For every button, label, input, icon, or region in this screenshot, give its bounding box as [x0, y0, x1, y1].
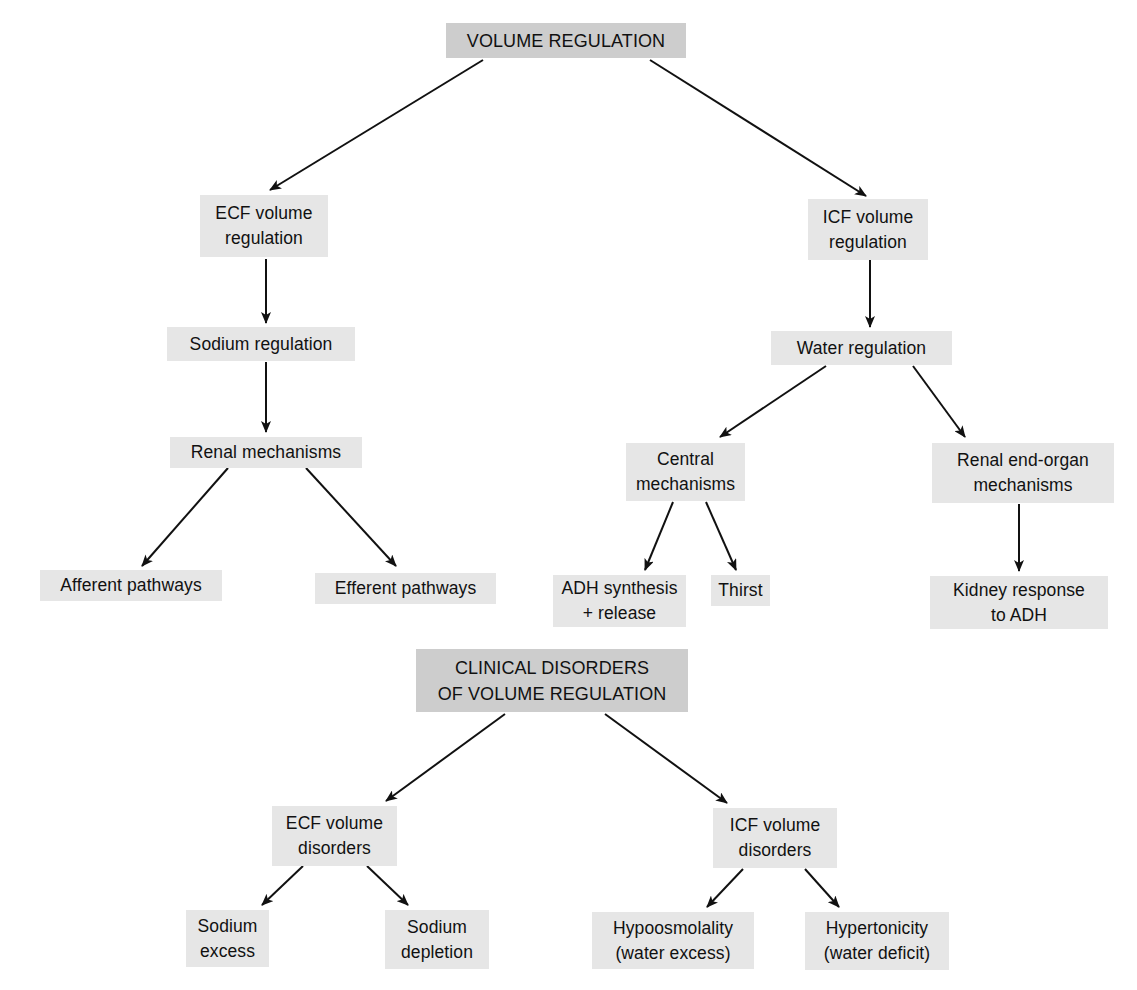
node-label-line-1: ICF volume: [730, 813, 820, 838]
node-label-line-1: Renal end-organ: [957, 448, 1089, 473]
node-label-line-1: Hypoosmolality: [613, 916, 733, 941]
node-sodium-depletion: Sodium depletion: [385, 910, 489, 969]
node-label: Thirst: [718, 578, 762, 603]
arrow-volume_regulation-to-icf_volume_regulation: [650, 60, 866, 196]
node-label-line-2: disorders: [298, 836, 371, 861]
node-label-line-2: regulation: [829, 230, 907, 255]
node-label-line-2: + release: [583, 601, 656, 626]
node-label-line-2: (water deficit): [824, 941, 931, 966]
node-label-line-2: OF VOLUME REGULATION: [438, 681, 667, 707]
node-efferent-pathways: Efferent pathways: [315, 573, 496, 604]
node-water-regulation: Water regulation: [771, 331, 952, 365]
arrow-water_regulation-to-renal_end_organ_mechanisms: [913, 366, 965, 437]
node-icf-volume-regulation: ICF volume regulation: [808, 199, 928, 260]
arrow-ecf_volume_disorders-to-sodium_depletion: [367, 866, 408, 905]
node-label-line-2: mechanisms: [636, 472, 735, 497]
node-label-line-1: Central: [657, 447, 714, 472]
arrows: [142, 60, 1019, 907]
node-volume-regulation: VOLUME REGULATION: [446, 23, 686, 58]
node-afferent-pathways: Afferent pathways: [40, 570, 222, 601]
node-label: Efferent pathways: [335, 576, 476, 601]
node-renal-mechanisms: Renal mechanisms: [170, 437, 362, 468]
node-label-line-2: to ADH: [991, 603, 1047, 628]
arrow-central_mechanisms-to-thirst: [706, 502, 736, 570]
node-label: Sodium regulation: [190, 332, 333, 357]
node-label-line-1: ADH synthesis: [561, 576, 677, 601]
node-label-line-1: ECF volume: [286, 811, 383, 836]
node-sodium-regulation: Sodium regulation: [167, 327, 355, 361]
arrow-ecf_volume_disorders-to-sodium_excess: [262, 866, 303, 905]
node-label-line-1: Kidney response: [953, 578, 1085, 603]
node-label-line-2: depletion: [401, 940, 473, 965]
node-label: Renal mechanisms: [191, 440, 341, 465]
node-label-line-1: ECF volume: [215, 201, 312, 226]
arrow-clinical_disorders-to-ecf_volume_disorders: [386, 714, 505, 801]
arrow-renal_mechanisms-to-efferent_pathways: [306, 468, 396, 566]
node-sodium-excess: Sodium excess: [186, 910, 269, 967]
node-label-line-1: Sodium: [407, 915, 467, 940]
node-label: Afferent pathways: [60, 573, 201, 598]
node-clinical-disorders: CLINICAL DISORDERS OF VOLUME REGULATION: [416, 649, 688, 712]
node-hypoosmolality: Hypoosmolality (water excess): [592, 912, 754, 969]
node-label: Water regulation: [797, 336, 926, 361]
node-thirst: Thirst: [711, 575, 770, 606]
arrow-icf_volume_disorders-to-hypertonicity: [805, 869, 839, 907]
node-label-line-2: (water excess): [615, 941, 730, 966]
node-label-line-2: excess: [200, 939, 255, 964]
node-renal-end-organ-mechanisms: Renal end-organ mechanisms: [932, 443, 1114, 503]
node-label: VOLUME REGULATION: [467, 28, 665, 54]
arrow-clinical_disorders-to-icf_volume_disorders: [605, 714, 727, 803]
node-ecf-volume-disorders: ECF volume disorders: [272, 806, 397, 866]
node-adh-synthesis-release: ADH synthesis + release: [553, 575, 686, 627]
node-label-line-1: Sodium: [198, 914, 258, 939]
node-label-line-1: CLINICAL DISORDERS: [455, 655, 649, 681]
arrow-central_mechanisms-to-adh_synthesis_release: [645, 502, 673, 570]
node-label-line-1: Hypertonicity: [826, 916, 928, 941]
node-label-line-1: ICF volume: [823, 205, 913, 230]
arrow-renal_mechanisms-to-afferent_pathways: [142, 468, 228, 566]
volume-regulation-diagram: VOLUME REGULATION ECF volume regulation …: [0, 0, 1137, 990]
node-central-mechanisms: Central mechanisms: [626, 443, 745, 501]
arrow-water_regulation-to-central_mechanisms: [720, 366, 826, 437]
node-icf-volume-disorders: ICF volume disorders: [713, 808, 837, 868]
node-label-line-2: disorders: [739, 838, 812, 863]
node-label-line-2: regulation: [225, 226, 303, 251]
arrow-volume_regulation-to-ecf_volume_regulation: [270, 60, 483, 190]
node-hypertonicity: Hypertonicity (water deficit): [805, 912, 949, 970]
node-kidney-response-to-adh: Kidney response to ADH: [930, 576, 1108, 629]
node-label-line-2: mechanisms: [973, 473, 1072, 498]
arrow-icf_volume_disorders-to-hypoosmolality: [707, 869, 743, 907]
node-ecf-volume-regulation: ECF volume regulation: [200, 195, 328, 257]
